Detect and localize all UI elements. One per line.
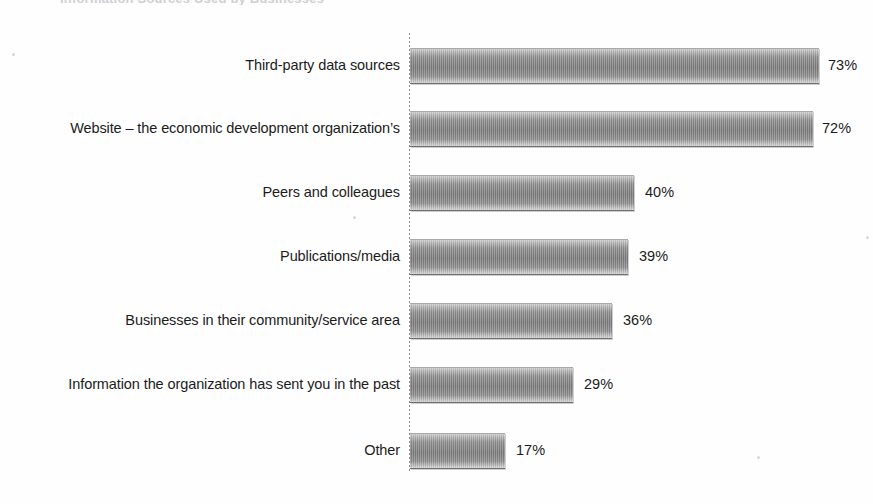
bar[interactable] <box>410 111 813 147</box>
category-label: Businesses in their community/service ar… <box>125 302 400 338</box>
bar[interactable] <box>410 175 634 211</box>
bar-track <box>410 302 612 338</box>
bar-value-label: 29% <box>584 366 613 402</box>
bar-row: Information the organization has sent yo… <box>0 366 873 402</box>
bar[interactable] <box>410 239 628 275</box>
bar-row: Other 17% <box>0 432 873 468</box>
bar-value-label: 40% <box>645 174 674 210</box>
bar-value-label: 72% <box>822 110 851 146</box>
bar[interactable] <box>410 433 505 469</box>
bar-row: Peers and colleagues 40% <box>0 174 873 210</box>
bar-value-label: 17% <box>516 432 545 468</box>
bar-row: Publications/media 39% <box>0 238 873 274</box>
bar[interactable] <box>410 48 819 84</box>
category-label: Information the organization has sent yo… <box>68 366 400 402</box>
category-label: Third-party data sources <box>245 47 400 83</box>
bar-track <box>410 110 813 146</box>
bar-value-label: 73% <box>828 47 857 83</box>
bar-row: Third-party data sources 73% <box>0 47 873 83</box>
bar[interactable] <box>410 303 612 339</box>
bar-row: Website – the economic development organ… <box>0 110 873 146</box>
bar-track <box>410 432 505 468</box>
bar-value-label: 39% <box>639 238 668 274</box>
bar-track <box>410 238 628 274</box>
bar[interactable] <box>410 367 573 403</box>
bar-track <box>410 47 819 83</box>
bar-value-label: 36% <box>623 302 652 338</box>
category-label: Other <box>364 432 400 468</box>
bar-chart-plot-area: Third-party data sources 73% Website – t… <box>0 0 873 504</box>
bar-track <box>410 366 573 402</box>
category-label: Publications/media <box>280 238 400 274</box>
bar-row: Businesses in their community/service ar… <box>0 302 873 338</box>
bar-track <box>410 174 634 210</box>
chart-page: Information Sources Used by Businesses T… <box>0 0 873 504</box>
category-label: Peers and colleagues <box>263 174 400 210</box>
category-label: Website – the economic development organ… <box>70 110 400 146</box>
